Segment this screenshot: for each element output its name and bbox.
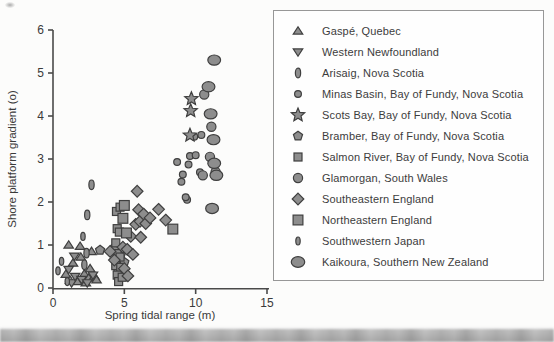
legend-marker-minas-basin-bay-of-fundy-nova-scotia <box>295 91 302 98</box>
marker-scots-bay-bay-of-fundy-nova-scotia <box>184 104 197 117</box>
kaikoura-southern-new-zealand-legend-marker-icon <box>287 252 314 271</box>
x-tick-label: 15 <box>260 296 274 310</box>
minas-basin-bay-of-fundy-nova-scotia-legend-marker-icon <box>287 84 314 103</box>
marker-northeastern-england <box>119 201 129 211</box>
legend-label: Salmon River, Bay of Fundy, Nova Scotia <box>322 151 529 163</box>
marker-scots-bay-bay-of-fundy-nova-scotia <box>185 92 198 105</box>
marker-southwestern-japan <box>65 278 69 286</box>
marker-southwestern-japan <box>59 257 63 265</box>
marker-minas-basin-bay-of-fundy-nova-scotia <box>192 152 199 159</box>
marker-kaikoura-southern-new-zealand <box>208 55 221 65</box>
marker-kaikoura-southern-new-zealand <box>210 170 223 180</box>
marker-arisaig-nova-scotia <box>82 260 87 270</box>
marker-minas-basin-bay-of-fundy-nova-scotia <box>182 194 189 201</box>
legend-item-gasp-quebec: Gaspé, Quebec <box>287 20 539 41</box>
y-tick-label: 1 <box>37 238 44 252</box>
marker-bramber-bay-of-fundy-nova-scotia <box>96 245 105 254</box>
marker-gasp-quebec <box>64 241 74 248</box>
legend-label: Glamorgan, South Wales <box>322 172 448 184</box>
legend-marker-gasp-quebec <box>293 27 303 34</box>
marker-kaikoura-southern-new-zealand <box>202 82 215 92</box>
scots-bay-bay-of-fundy-nova-scotia-legend-marker-icon <box>287 105 314 124</box>
northeastern-england-legend-marker-icon <box>287 210 314 229</box>
legend-marker-western-newfoundland <box>293 49 303 56</box>
glamorgan-south-wales-legend-marker-icon <box>287 168 314 187</box>
legend-label: Minas Basin, Bay of Fundy, Nova Scotia <box>322 88 523 100</box>
marker-southeastern-england <box>153 204 165 216</box>
legend-marker-northeastern-england <box>293 215 303 225</box>
marker-gasp-quebec <box>75 242 85 249</box>
marker-kaikoura-southern-new-zealand <box>208 158 221 168</box>
legend-item-scots-bay-bay-of-fundy-nova-scotia: Scots Bay, Bay of Fundy, Nova Scotia <box>287 104 539 125</box>
marker-glamorgan-south-wales <box>207 122 216 131</box>
series-minas-basin-bay-of-fundy-nova-scotia <box>174 132 205 204</box>
salmon-river-bay-of-fundy-nova-scotia-legend-marker-icon <box>287 147 314 166</box>
legend-box: Gaspé, QuebecWestern NewfoundlandArisaig… <box>273 10 544 281</box>
y-tick-label: 5 <box>37 66 44 80</box>
marker-minas-basin-bay-of-fundy-nova-scotia <box>198 132 205 139</box>
y-axis-label: Shore platform gradient (o) <box>6 90 18 228</box>
legend-label: Western Newfoundland <box>322 46 439 58</box>
western-newfoundland-legend-marker-icon <box>287 42 314 61</box>
bramber-bay-of-fundy-nova-scotia-legend-marker-icon <box>287 126 314 145</box>
x-axis-label: Spring tidal range (m) <box>105 309 216 321</box>
marker-minas-basin-bay-of-fundy-nova-scotia <box>179 171 186 178</box>
legend-marker-arisaig-nova-scotia <box>295 68 300 78</box>
legend-item-southeastern-england: Southeastern England <box>287 188 539 209</box>
marker-southeastern-england <box>131 185 143 197</box>
x-tick-label: 10 <box>189 296 203 310</box>
legend-item-arisaig-nova-scotia: Arisaig, Nova Scotia <box>287 62 539 83</box>
marker-kaikoura-southern-new-zealand <box>204 109 217 119</box>
legend-item-kaikoura-southern-new-zealand: Kaikoura, Southern New Zealand <box>287 251 539 272</box>
y-tick-label: 4 <box>37 109 44 123</box>
marker-southwestern-japan <box>56 267 60 275</box>
marker-minas-basin-bay-of-fundy-nova-scotia <box>174 159 181 166</box>
y-tick-label: 2 <box>37 195 44 209</box>
arisaig-nova-scotia-legend-marker-icon <box>287 63 314 82</box>
legend-label: Kaikoura, Southern New Zealand <box>322 256 489 268</box>
marker-kaikoura-southern-new-zealand <box>207 135 220 145</box>
marker-northeastern-england <box>168 224 178 234</box>
marker-arisaig-nova-scotia <box>85 210 90 220</box>
marker-minas-basin-bay-of-fundy-nova-scotia <box>185 161 192 168</box>
marker-northeastern-england <box>118 213 128 223</box>
x-tick-label: 5 <box>121 296 128 310</box>
legend-marker-kaikoura-southern-new-zealand <box>291 257 304 268</box>
y-tick-label: 0 <box>37 281 44 295</box>
legend-label: Bramber, Bay of Fundy, Nova Scotia <box>322 130 504 142</box>
legend-item-minas-basin-bay-of-fundy-nova-scotia: Minas Basin, Bay of Fundy, Nova Scotia <box>287 83 539 104</box>
legend-label: Southeastern England <box>322 193 434 205</box>
gasp-quebec-legend-marker-icon <box>287 21 314 40</box>
series-scots-bay-bay-of-fundy-nova-scotia <box>183 92 198 141</box>
legend-item-northeastern-england: Northeastern England <box>287 209 539 230</box>
legend-marker-scots-bay-bay-of-fundy-nova-scotia <box>291 108 304 121</box>
southwestern-japan-legend-marker-icon <box>287 231 314 250</box>
marker-arisaig-nova-scotia <box>89 180 94 190</box>
legend-item-salmon-river-bay-of-fundy-nova-scotia: Salmon River, Bay of Fundy, Nova Scotia <box>287 146 539 167</box>
marker-southeastern-england <box>135 231 147 243</box>
marker-glamorgan-south-wales <box>198 171 207 180</box>
legend-marker-southwestern-japan <box>296 237 300 245</box>
legend-marker-southeastern-england <box>292 193 304 205</box>
legend-item-southwestern-japan: Southwestern Japan <box>287 230 539 251</box>
legend-marker-salmon-river-bay-of-fundy-nova-scotia <box>294 153 302 161</box>
scanned-figure-page: 0510150123456 Spring tidal range (m) Sho… <box>0 0 554 342</box>
marker-kaikoura-southern-new-zealand <box>206 203 219 213</box>
y-tick-label: 6 <box>37 23 44 37</box>
legend-marker-bramber-bay-of-fundy-nova-scotia <box>293 131 302 140</box>
legend-label: Northeastern England <box>322 214 432 226</box>
legend-item-glamorgan-south-wales: Glamorgan, South Wales <box>287 167 539 188</box>
marker-northeastern-england <box>122 228 132 238</box>
southeastern-england-legend-marker-icon <box>287 189 314 208</box>
legend-label: Scots Bay, Bay of Fundy, Nova Scotia <box>322 109 512 121</box>
legend-label: Southwestern Japan <box>322 235 425 247</box>
marker-minas-basin-bay-of-fundy-nova-scotia <box>178 178 185 185</box>
legend-label: Gaspé, Quebec <box>322 25 401 37</box>
data-points <box>56 55 223 287</box>
scan-bleed-through-band <box>0 327 554 342</box>
marker-southwestern-japan <box>81 232 85 240</box>
legend-item-bramber-bay-of-fundy-nova-scotia: Bramber, Bay of Fundy, Nova Scotia <box>287 125 539 146</box>
marker-arisaig-nova-scotia <box>84 248 89 258</box>
legend-item-western-newfoundland: Western Newfoundland <box>287 41 539 62</box>
legend-marker-glamorgan-south-wales <box>293 173 302 182</box>
